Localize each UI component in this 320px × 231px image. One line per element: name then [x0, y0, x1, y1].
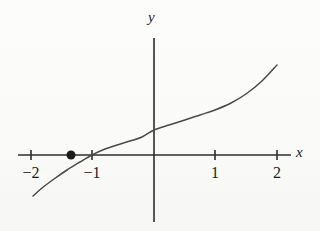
x-tick-label-2: 2 — [257, 165, 297, 181]
x-tick-label-minus-1: −1 — [72, 165, 112, 181]
function-curve — [33, 65, 277, 196]
coordinate-plot — [0, 0, 320, 231]
graph-figure: x y −2 −1 1 2 — [0, 0, 320, 231]
y-axis-label: y — [148, 10, 155, 25]
x-axis-label: x — [296, 145, 303, 160]
x-tick-label-1: 1 — [195, 165, 235, 181]
curve-point-marker — [67, 151, 76, 160]
x-tick-label-minus-2: −2 — [11, 165, 51, 181]
